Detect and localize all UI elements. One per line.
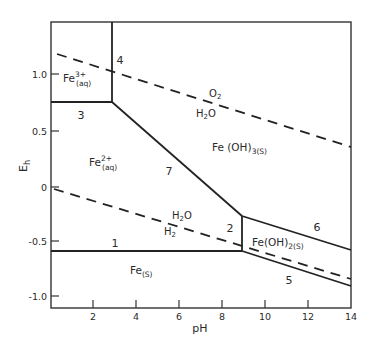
boundary-label-1: 1 <box>112 237 119 250</box>
boundary-label-7: 7 <box>166 165 173 178</box>
phase-boundaries <box>51 22 351 286</box>
pourbaix-diagram: 1.0 0.5 0 -0.5 -1.0 2 4 6 8 10 12 14 pH … <box>0 0 373 349</box>
region-fe-oh-3-s: Fe (OH)3(S) <box>212 141 267 156</box>
o2-label: O2 <box>209 88 221 101</box>
o2-h2o-line <box>57 54 351 147</box>
region-fe2-aq: Fe2+(aq) <box>89 154 117 172</box>
y-ticks <box>51 74 59 296</box>
h2o-h2-line <box>54 189 351 279</box>
y-tick-label: -1.0 <box>28 291 47 302</box>
boundary-5 <box>242 251 351 286</box>
region-fe3-aq: Fe3+(aq) <box>63 70 91 88</box>
x-tick-label: 12 <box>302 311 314 322</box>
y-axis-label: Eh <box>17 160 32 172</box>
x-ticks <box>93 300 308 308</box>
h2-label: H2 <box>164 226 176 239</box>
x-tick-label: 6 <box>176 311 182 322</box>
boundary-label-3: 3 <box>78 109 85 122</box>
x-tick-label: 14 <box>345 311 357 322</box>
y-tick-label: 1.0 <box>32 69 47 80</box>
x-tick-label: 8 <box>219 311 225 322</box>
y-tick-label: 0.5 <box>32 126 47 137</box>
region-fe-s: Fe(S) <box>130 264 153 279</box>
x-axis-label: pH <box>192 322 207 335</box>
region-fe-oh-2-s: Fe(OH)2(S) <box>252 236 304 251</box>
boundary-label-5: 5 <box>286 274 293 287</box>
y-tick-label: 0 <box>41 182 47 193</box>
h2o-lower-label: H2O <box>172 210 192 223</box>
x-tick-label: 10 <box>259 311 271 322</box>
boundary-label-2: 2 <box>227 222 234 235</box>
boundary-7 <box>112 102 242 216</box>
x-tick-label: 2 <box>90 311 96 322</box>
y-tick-label: -0.5 <box>28 236 47 247</box>
h2o-upper-label: H2O <box>196 108 216 121</box>
boundary-label-6: 6 <box>314 221 321 234</box>
boundary-label-4: 4 <box>117 54 124 67</box>
x-tick-label: 4 <box>133 311 139 322</box>
svg-text:Eh: Eh <box>17 160 32 172</box>
